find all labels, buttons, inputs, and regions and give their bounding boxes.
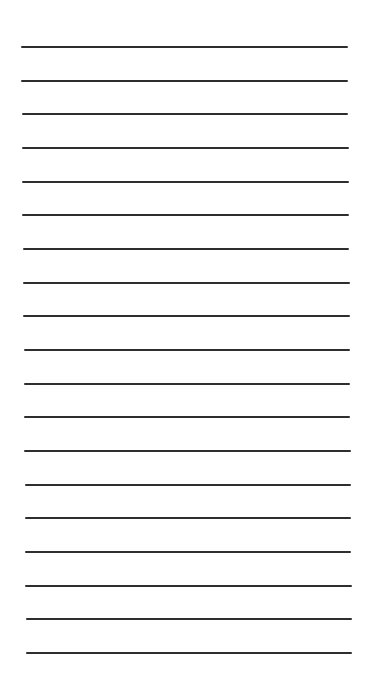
ruled-line: [21, 80, 348, 82]
ruled-line: [23, 315, 350, 317]
ruled-line: [22, 113, 349, 115]
ruled-line: [25, 484, 351, 486]
ruled-line: [26, 618, 352, 620]
ruled-line: [22, 214, 349, 216]
lined-paper-page: [0, 0, 369, 690]
ruled-line: [22, 181, 349, 183]
ruled-line: [25, 551, 351, 553]
ruled-line: [21, 46, 348, 48]
ruled-line: [24, 450, 350, 452]
ruled-line: [24, 349, 351, 351]
ruled-line: [26, 652, 352, 654]
ruled-line: [22, 147, 349, 149]
ruled-line: [23, 282, 350, 284]
ruled-line: [23, 248, 350, 250]
ruled-line: [24, 383, 350, 385]
ruled-line: [25, 517, 351, 519]
ruled-line: [25, 585, 351, 587]
ruled-line: [24, 416, 350, 418]
